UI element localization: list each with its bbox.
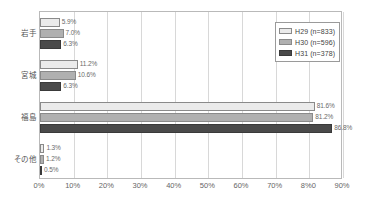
x-tick-label: 60% [233,181,248,190]
bar-h31-3 [40,166,42,175]
bar-h31-1 [40,82,61,91]
bar-row: 86.8% [40,124,341,133]
x-tick-label: 90% [334,181,349,190]
x-tick-label: 0% [34,181,45,190]
bar-h31-0 [40,40,61,49]
category-label-3: その他 [0,153,36,164]
bar-row: 0.5% [40,166,341,175]
bar-value-label: 5.9% [62,17,76,27]
bar-h30-2 [40,113,313,122]
chart-legend: H29 (n=833) H30 (n=596) H31 (n=378) [275,22,340,62]
bar-row: 10.6% [40,71,341,80]
x-tick-label: 20% [99,181,114,190]
legend-label-h31: H31 (n=378) [295,50,335,57]
bar-h29-0 [40,18,60,27]
bar-value-label: 6.3% [63,39,77,49]
bar-h29-1 [40,60,78,69]
bar-value-label: 0.5% [44,165,58,175]
bar-value-label: 11.2% [80,59,97,69]
x-tick-label: 10% [65,181,80,190]
bar-value-label: 6.3% [63,81,77,91]
bar-value-label: 1.2% [46,154,60,164]
legend-item-h31: H31 (n=378) [279,48,335,58]
bar-h29-3 [40,144,44,153]
bar-value-label: 1.3% [46,143,60,153]
category-label-2: 福島 [0,111,36,122]
bar-group: 11.2%10.6%6.3% [40,60,341,91]
bar-value-label: 81.6% [317,101,335,111]
bar-value-label: 86.8% [334,123,352,133]
bar-value-label: 81.2% [315,112,333,122]
bar-row: 6.3% [40,82,341,91]
bar-row: 81.6% [40,102,341,111]
bar-h30-0 [40,29,64,38]
bar-row: 1.3% [40,144,341,153]
bar-value-label: 10.6% [78,70,96,80]
legend-label-h29: H29 (n=833) [295,28,335,35]
bar-row: 81.2% [40,113,341,122]
x-tick-label: 50% [200,181,215,190]
bar-h30-1 [40,71,76,80]
legend-swatch-h30 [279,39,292,45]
bar-group: 1.3%1.2%0.5% [40,144,341,175]
bar-group: 81.6%81.2%86.8% [40,102,341,133]
category-label-1: 宮城 [0,69,36,80]
legend-label-h30: H30 (n=596) [295,39,335,46]
bar-value-label: 7.0% [66,28,80,38]
category-label-0: 岩手 [0,27,36,38]
legend-swatch-h29 [279,28,292,34]
x-tick-label: 70% [267,181,282,190]
bar-h31-2 [40,124,332,133]
bar-row: 1.2% [40,155,341,164]
legend-item-h30: H30 (n=596) [279,37,335,47]
bar-h29-2 [40,102,315,111]
x-axis-labels: 0%10%20%30%40%50%60%70%8%090% [39,181,342,201]
bar-chart: 5.9%7.0%6.3%11.2%10.6%6.3%81.6%81.2%86.8… [0,0,370,207]
legend-swatch-h31 [279,50,292,56]
gridline [343,12,344,178]
legend-item-h29: H29 (n=833) [279,26,335,36]
x-tick-label: 30% [132,181,147,190]
x-tick-label: 8%0 [301,181,316,190]
x-tick-label: 40% [166,181,181,190]
bar-h30-3 [40,155,44,164]
